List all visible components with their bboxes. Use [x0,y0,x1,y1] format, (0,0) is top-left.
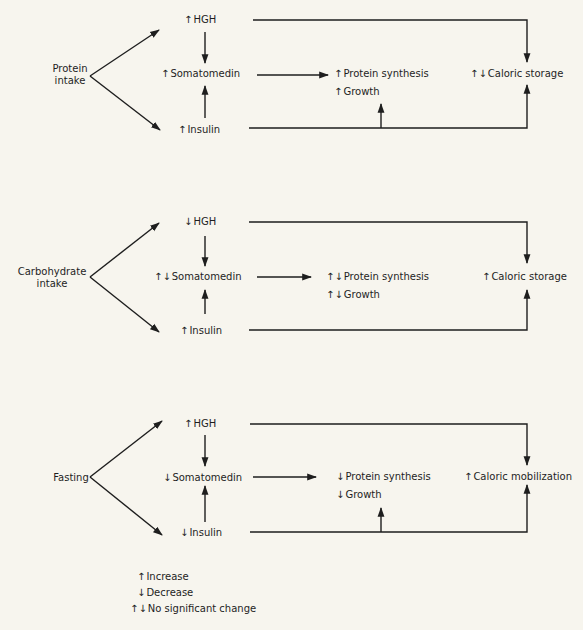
decrease-arrow-icon: ↓ [184,216,192,227]
panel-1-growth: ↑Growth [334,86,380,98]
increase-arrow-icon: ↑ [178,124,186,135]
panel-2-somatomedin: ↑↓Somatomedin [154,271,242,283]
increase-arrow-icon: ↑ [464,471,472,482]
panel-1-caloric: ↑↓Caloric storage [470,68,563,80]
no-change-arrows-icon: ↑↓ [130,603,147,614]
decrease-arrow-icon: ↓ [163,472,171,483]
panel-2-growth: ↑↓Growth [326,289,380,301]
legend-increase: ↑Increase [137,571,189,583]
decrease-arrow-icon: ↓ [336,471,344,482]
no-change-arrows-icon: ↑↓ [470,68,487,79]
panel-3-caloric: ↑Caloric mobilization [464,471,572,483]
increase-arrow-icon: ↑ [482,271,490,282]
panel-2-caloric: ↑Caloric storage [482,271,567,283]
decrease-arrow-icon: ↓ [180,527,188,538]
no-change-arrows-icon: ↑↓ [326,271,343,282]
panel-1-insulin: ↑Insulin [178,124,220,136]
panel-2-hgh: ↓HGH [184,216,216,228]
increase-arrow-icon: ↑ [180,325,188,336]
increase-arrow-icon: ↑ [161,68,169,79]
panel-1-protein-synthesis: ↑Protein synthesis [334,68,429,80]
panel-2-source: Carbohydrate intake [14,266,90,290]
decrease-arrow-icon: ↓ [336,489,344,500]
panel-1-somatomedin: ↑Somatomedin [161,68,240,80]
panel-1-connectors [90,20,527,130]
increase-arrow-icon: ↑ [184,418,192,429]
legend-decrease: ↓Decrease [137,587,193,599]
increase-arrow-icon: ↑ [334,68,342,79]
panel-1-source: Protein intake [50,63,90,87]
no-change-arrows-icon: ↑↓ [326,289,343,300]
panel-3-connectors [90,421,527,535]
legend-no-change: ↑↓No significant change [130,603,256,615]
panel-3-insulin: ↓Insulin [180,527,222,539]
panel-1-hgh: ↑HGH [184,14,216,26]
panel-3-protein-synthesis: ↓Protein synthesis [336,471,431,483]
increase-arrow-icon: ↑ [184,14,192,25]
increase-arrow-icon: ↑ [334,86,342,97]
diagram-connectors [0,0,583,630]
panel-3-growth: ↓Growth [336,489,382,501]
panel-2-insulin: ↑Insulin [180,325,222,337]
no-change-arrows-icon: ↑↓ [154,271,171,282]
panel-2-protein-synthesis: ↑↓Protein synthesis [326,271,429,283]
panel-3-hgh: ↑HGH [184,418,216,430]
panel-3-source: Fasting [52,472,90,484]
increase-arrow-icon: ↑ [137,571,145,582]
decrease-arrow-icon: ↓ [137,587,145,598]
panel-3-somatomedin: ↓Somatomedin [163,472,242,484]
